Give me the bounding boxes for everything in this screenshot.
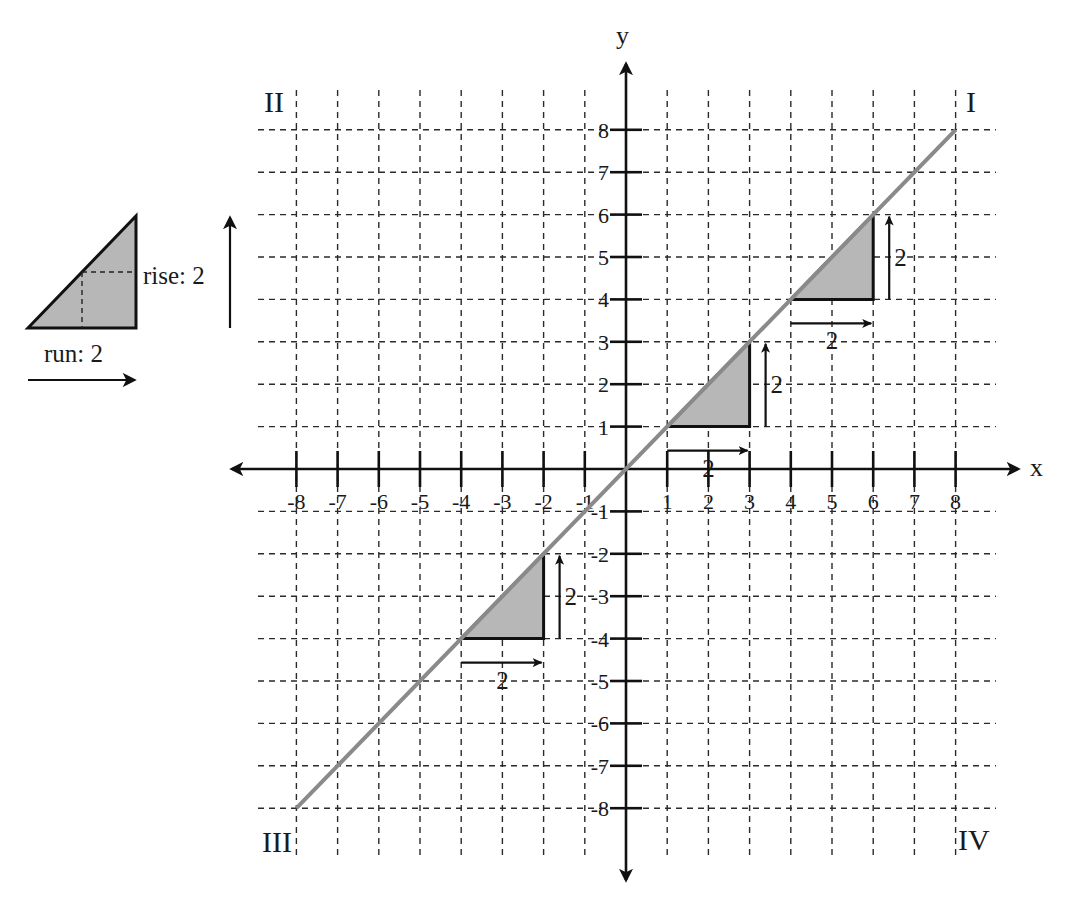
x-tick-label: 6 [868, 489, 879, 514]
y-tick-label: 2 [598, 372, 609, 397]
run-label: 2 [702, 455, 715, 482]
slope-legend: rise: 2 run: 2 [28, 216, 230, 380]
quadrant-label-iii: III [262, 825, 292, 858]
run-label: 2 [826, 327, 839, 354]
legend-run-label: run: 2 [44, 340, 103, 367]
x-tick-label: -6 [370, 489, 388, 514]
rise-label: 2 [771, 371, 784, 398]
y-tick-label: 1 [598, 415, 609, 440]
y-axis-label: y [616, 21, 629, 50]
run-label: 2 [496, 667, 509, 694]
x-tick-label: -3 [493, 489, 511, 514]
x-tick-label: 8 [950, 489, 961, 514]
x-tick-label: -8 [287, 489, 305, 514]
x-tick-label: -5 [411, 489, 429, 514]
x-tick-label: 2 [703, 489, 714, 514]
x-tick-label: -4 [452, 489, 470, 514]
y-tick-label: 6 [598, 203, 609, 228]
y-tick-label: 3 [598, 330, 609, 355]
y-tick-label: 8 [598, 118, 609, 143]
y-tick-label: -8 [591, 796, 609, 821]
rise-label: 2 [565, 583, 578, 610]
x-tick-label: 4 [785, 489, 796, 514]
quadrant-label-iv: IV [958, 823, 990, 856]
y-tick-label: -7 [591, 754, 609, 779]
x-tick-label: 3 [744, 489, 755, 514]
y-tick-label: 7 [598, 160, 609, 185]
x-tick-label: -2 [534, 489, 552, 514]
y-tick-label: -5 [591, 669, 609, 694]
x-tick-label: 5 [827, 489, 838, 514]
rise-label: 2 [894, 244, 907, 271]
y-tick-label: -3 [591, 584, 609, 609]
y-tick-label: -6 [591, 711, 609, 736]
y-tick-label: -4 [591, 627, 609, 652]
y-tick-label: 4 [598, 287, 609, 312]
coordinate-plane: -8-7-6-5-4-3-2-112345678-8-7-6-5-4-3-2-1… [0, 0, 1070, 899]
y-tick-label: -2 [591, 542, 609, 567]
quadrant-label-ii: II [264, 85, 284, 118]
x-tick-label: -7 [328, 489, 346, 514]
legend-rise-label: rise: 2 [143, 262, 205, 289]
y-tick-label: 5 [598, 245, 609, 270]
x-axis-label: x [1030, 453, 1043, 482]
x-tick-label: 7 [909, 489, 920, 514]
x-tick-label: 1 [662, 489, 673, 514]
quadrant-label-i: I [966, 85, 976, 118]
